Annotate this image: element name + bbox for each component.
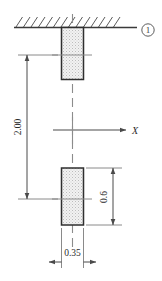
upper-block xyxy=(52,28,92,80)
support-marker: 1 xyxy=(142,24,154,36)
lower-block xyxy=(52,168,92,225)
x-axis-label: X xyxy=(131,125,139,136)
ground-hatch-icon xyxy=(16,17,120,27)
dimension-block-width: 0.35 xyxy=(49,228,96,268)
dimension-block-height-label: 0.6 xyxy=(99,191,109,203)
dimension-length: 2.00 xyxy=(13,55,58,199)
dimension-length-label: 2.00 xyxy=(13,118,23,135)
support-marker-label: 1 xyxy=(146,25,151,35)
drawing-canvas: 1 X 2.00 xyxy=(0,0,162,281)
dimension-block-width-label: 0.35 xyxy=(64,248,81,258)
x-axis: X xyxy=(53,117,139,144)
ground-support xyxy=(14,17,137,28)
dimension-block-height: 0.6 xyxy=(86,168,122,225)
engineering-drawing-figure: 1 X 2.00 xyxy=(0,0,162,281)
